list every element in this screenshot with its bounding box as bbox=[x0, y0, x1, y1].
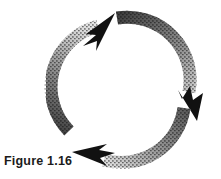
figure-caption: Figure 1.16 bbox=[4, 154, 72, 168]
figure-container: Figure 1.16 bbox=[0, 0, 221, 179]
cycle-diagram bbox=[0, 0, 221, 179]
segment-bottom bbox=[72, 108, 184, 166]
segment-upper-left bbox=[51, 13, 115, 131]
segment-right bbox=[117, 17, 203, 121]
